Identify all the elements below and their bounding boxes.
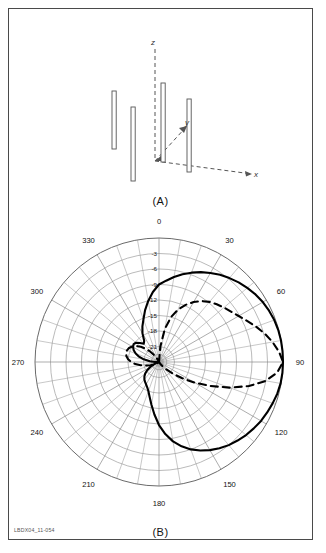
polar-series-group [126,272,283,450]
z-axis-label: z [150,38,155,47]
figure-id-code: LBDX04_11-054 [14,527,55,533]
radial-tick--6: -6 [151,265,157,272]
dipole-element-4 [187,99,191,172]
dipole-element-3 [161,83,165,162]
radial-tick--3: -3 [151,250,157,257]
angle-tick-30: 30 [225,236,233,245]
angle-tick-90: 90 [296,358,304,367]
radial-tick--21: -21 [148,343,158,350]
y-axis-line [155,126,187,161]
angle-tick-120: 120 [275,428,288,437]
polar-chart-svg: 0306090120150180210240270300330 -3-6-9-1… [9,214,314,541]
angle-tick-180: 180 [153,499,166,508]
x-axis-label: x [253,170,259,179]
panel-b-polar-pattern: 0306090120150180210240270300330 -3-6-9-1… [9,214,312,541]
radial-tick--18: -18 [148,327,158,334]
x-axis-line [155,161,252,174]
y-axis-arrow [179,126,187,133]
angle-tick-270: 270 [12,358,25,367]
angle-tick-60: 60 [277,287,285,296]
angle-tick-330: 330 [82,236,95,245]
array-geometry-svg: z y x [9,9,314,219]
dipole-element-2 [131,107,135,181]
angle-tick-300: 300 [31,287,44,296]
angle-tick-0: 0 [157,217,161,226]
panel-a-array-geometry: z y x (A) [9,9,312,219]
dipole-element-1 [112,91,116,149]
angle-tick-210: 210 [82,480,95,489]
angle-tick-240: 240 [31,428,44,437]
angle-tick-150: 150 [223,480,236,489]
panel-a-caption: (A) [9,195,312,207]
figure-frame: z y x (A) 030609012015018021024027030033… [8,8,313,540]
x-axis-arrow [245,171,252,177]
radial-tick--15: -15 [148,312,158,319]
